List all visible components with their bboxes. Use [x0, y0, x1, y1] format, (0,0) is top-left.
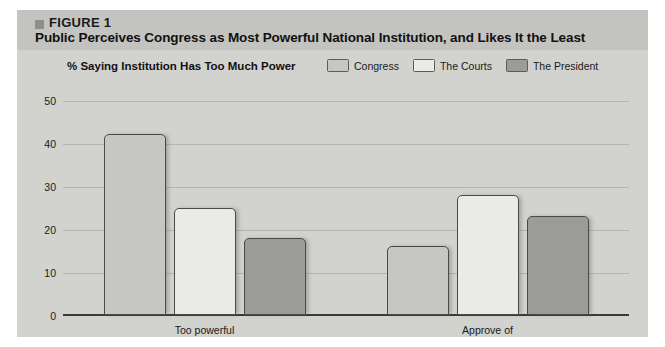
y-axis-tick-label: 20 — [44, 224, 56, 236]
bar-the-president-too-powerful — [244, 238, 306, 315]
legend-swatch-icon — [413, 59, 435, 72]
legend-item-label: The Courts — [440, 60, 492, 72]
figure-panel: FIGURE 1 Public Perceives Congress as Mo… — [17, 10, 648, 337]
chart-legend: CongressThe CourtsThe President — [327, 59, 598, 72]
chart-body: % Saying Institution Has Too Much Power … — [17, 50, 648, 337]
y-axis-tick-label: 10 — [44, 267, 56, 279]
legend-item-label: Congress — [354, 60, 399, 72]
figure-title: Public Perceives Congress as Most Powerf… — [35, 30, 585, 45]
x-axis-category-label: Approve of — [462, 324, 513, 336]
bar-congress-approve-of — [387, 246, 449, 315]
bar-congress-too-powerful — [104, 134, 166, 315]
legend-item-congress[interactable]: Congress — [327, 59, 399, 72]
square-marker-icon — [35, 20, 44, 29]
legend-item-label: The President — [533, 60, 598, 72]
figure-number-label: FIGURE 1 — [49, 15, 111, 30]
legend-swatch-icon — [327, 59, 349, 72]
bar-the-courts-too-powerful — [174, 208, 236, 316]
legend-item-the-courts[interactable]: The Courts — [413, 59, 492, 72]
y-axis-tick-label: 50 — [44, 95, 56, 107]
bar-the-courts-approve-of — [457, 195, 519, 315]
bar-the-president-approve-of — [527, 216, 589, 315]
y-axis-tick-label: 0 — [50, 310, 56, 322]
y-axis-tick-label: 40 — [44, 138, 56, 150]
legend-item-the-president[interactable]: The President — [506, 59, 598, 72]
x-axis-category-label: Too powerful — [175, 324, 235, 336]
legend-swatch-icon — [506, 59, 528, 72]
plot-area: 01020304050Too powerfulApprove of — [63, 101, 629, 316]
figure-header: FIGURE 1 Public Perceives Congress as Mo… — [17, 10, 648, 50]
gridline — [63, 101, 629, 102]
y-axis-tick-label: 30 — [44, 181, 56, 193]
chart-subtitle: % Saying Institution Has Too Much Power — [67, 60, 296, 72]
